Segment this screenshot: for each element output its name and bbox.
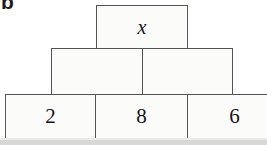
- pyramid-cell-value: x: [138, 17, 147, 38]
- pyramid-cell-middle-2: [142, 48, 233, 95]
- pyramid-cell-bottom-3: 6: [187, 94, 267, 139]
- pyramid-cell-bottom-1: 2: [5, 94, 96, 139]
- pyramid-cell-value: 6: [229, 106, 240, 127]
- part-label: b: [1, 0, 14, 12]
- pyramid-cell-middle-1: [51, 48, 143, 95]
- scan-edge: [0, 140, 267, 145]
- pyramid-cell-value: 8: [136, 106, 147, 127]
- puzzle-figure: b x 2 8 6: [0, 0, 267, 145]
- pyramid-cell-value: 2: [45, 106, 56, 127]
- pyramid-cell-bottom-2: 8: [95, 94, 188, 139]
- pyramid-cell-top-1: x: [96, 5, 188, 49]
